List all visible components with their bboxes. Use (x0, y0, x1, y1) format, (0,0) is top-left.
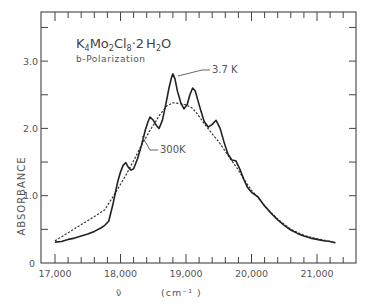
chart-canvas: 17,00018,00019,00020,00021,000 01.02.03.… (0, 0, 368, 306)
y-tick-label: 3.0 (23, 56, 38, 67)
y-tick-label: 2.0 (23, 123, 38, 134)
y-axis-label: ABSORBANCE (16, 156, 27, 235)
x-tick-label: 21,000 (300, 268, 333, 279)
x-axis-label-symbol: ν̃ (116, 287, 121, 298)
series-3-7k-line (55, 74, 335, 243)
annotation-label: 3.7 K (212, 64, 238, 75)
x-axis-tick-labels: 17,00018,00019,00020,00021,000 (38, 268, 333, 279)
chart-title: K4Mo2Cl8·2H2O (76, 36, 171, 53)
x-axis-label-units: (cm⁻¹ ) (161, 287, 202, 298)
annotation-leader (178, 70, 210, 76)
x-tick-label: 19,000 (169, 268, 202, 279)
absorbance-chart: 17,00018,00019,00020,00021,000 01.02.03.… (0, 0, 368, 306)
x-tick-label: 18,000 (104, 268, 137, 279)
series-300k-line (55, 103, 335, 243)
x-tick-label: 20,000 (235, 268, 268, 279)
annotation-leader (142, 136, 158, 150)
annotation-label: 300K (160, 144, 186, 155)
x-tick-label: 17,000 (38, 268, 71, 279)
y-tick-label: 0 (29, 258, 35, 269)
chart-subtitle: b-Polarization (76, 54, 146, 64)
